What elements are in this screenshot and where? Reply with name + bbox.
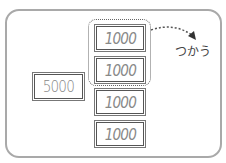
use-label: つかう: [175, 42, 211, 59]
curved-arrow-icon: [0, 0, 226, 163]
